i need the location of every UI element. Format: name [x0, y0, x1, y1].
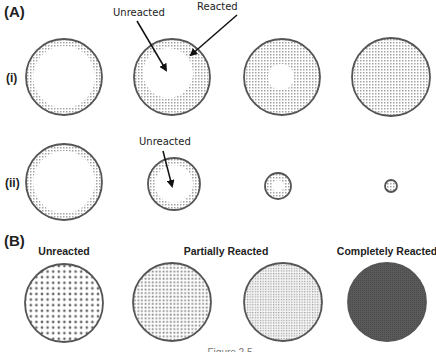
unreacted-core — [33, 46, 95, 108]
particle-fine — [244, 263, 322, 341]
row-i-particles — [26, 38, 430, 116]
state-heading: Unreacted — [38, 245, 89, 257]
panel-b-label: (B) — [4, 232, 25, 249]
state-heading: Completely Reacted — [337, 245, 436, 257]
particle — [352, 38, 430, 116]
particle — [134, 39, 210, 115]
annotation-label: Unreacted — [139, 136, 191, 147]
particle — [26, 144, 102, 220]
particle-medium — [133, 263, 211, 341]
panel-b-headings: UnreactedPartially ReactedCompletely Rea… — [38, 245, 436, 257]
particle-dark — [348, 263, 426, 341]
particle-coarse — [25, 264, 103, 342]
row-i-label: (i) — [6, 71, 17, 85]
unreacted-core — [272, 180, 284, 192]
unreacted-core — [155, 165, 193, 203]
unreacted-core — [143, 48, 193, 98]
panel-b-particles — [25, 263, 426, 342]
particle — [148, 158, 200, 210]
arrow-icon — [191, 15, 237, 55]
row-ii-particles — [26, 144, 397, 220]
reaction-model-figure: (A) (B) (i) (ii) UnreactedReactedUnreact… — [0, 0, 436, 352]
particle — [265, 173, 291, 199]
particle — [26, 39, 102, 115]
unreacted-core — [268, 64, 294, 90]
annotation-label: Reacted — [197, 1, 238, 12]
figure-caption: Figure 2.5 — [207, 347, 252, 352]
particle — [385, 180, 397, 192]
unreacted-core — [33, 151, 95, 213]
row-ii-label: (ii) — [5, 176, 20, 190]
particle — [244, 39, 320, 115]
state-heading: Partially Reacted — [184, 245, 269, 257]
panel-a-label: (A) — [4, 3, 25, 20]
annotation-label: Unreacted — [113, 7, 165, 18]
